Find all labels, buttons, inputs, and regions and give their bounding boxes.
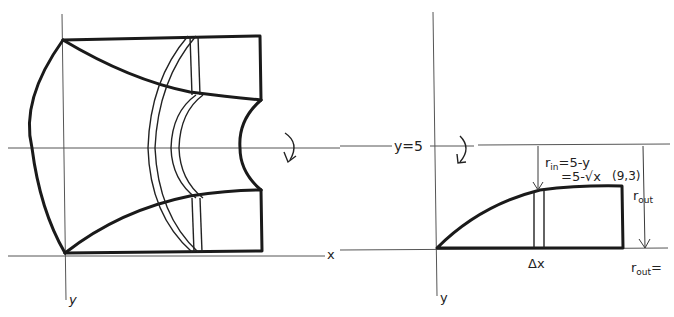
diagram-canvas: x y y=5 y Δx rin=5-y =5-√x (9,3)	[0, 0, 674, 317]
y-axis-label: y	[68, 292, 77, 307]
r-out-label: rout	[633, 188, 654, 205]
top-edge	[63, 36, 261, 100]
right-figure: y=5 y Δx rin=5-y =5-√x (9,3) rout rout=	[340, 12, 670, 305]
upper-inner-curve	[63, 40, 261, 100]
region-outline	[437, 186, 623, 248]
right-hollow-curve	[240, 100, 261, 190]
y-axis-label-right: y	[440, 290, 448, 305]
slice-line-top-1	[190, 36, 192, 95]
axis-line-label: y=5	[394, 138, 423, 154]
line-y5-right	[478, 144, 670, 145]
left-figure: x y	[8, 14, 340, 307]
r-out-bottom-label: rout=	[631, 260, 662, 277]
slice-line-bottom-2	[200, 198, 202, 252]
y-axis-right	[433, 12, 437, 296]
lower-inner-curve	[65, 190, 261, 253]
left-cap-curve	[29, 40, 65, 253]
y-axis	[62, 14, 66, 300]
curved-arrow-icon	[457, 136, 466, 163]
r-in-equation: =5-√x	[561, 169, 601, 184]
slice-line-bottom-1	[192, 198, 194, 252]
slice-line-top-2	[198, 36, 200, 95]
point-label: (9,3)	[612, 169, 640, 183]
washer-inner-arc-1	[171, 95, 196, 198]
x-axis-label: x	[327, 247, 335, 262]
slice-label: Δx	[528, 256, 545, 271]
washer-inner-arc-2	[179, 95, 203, 198]
